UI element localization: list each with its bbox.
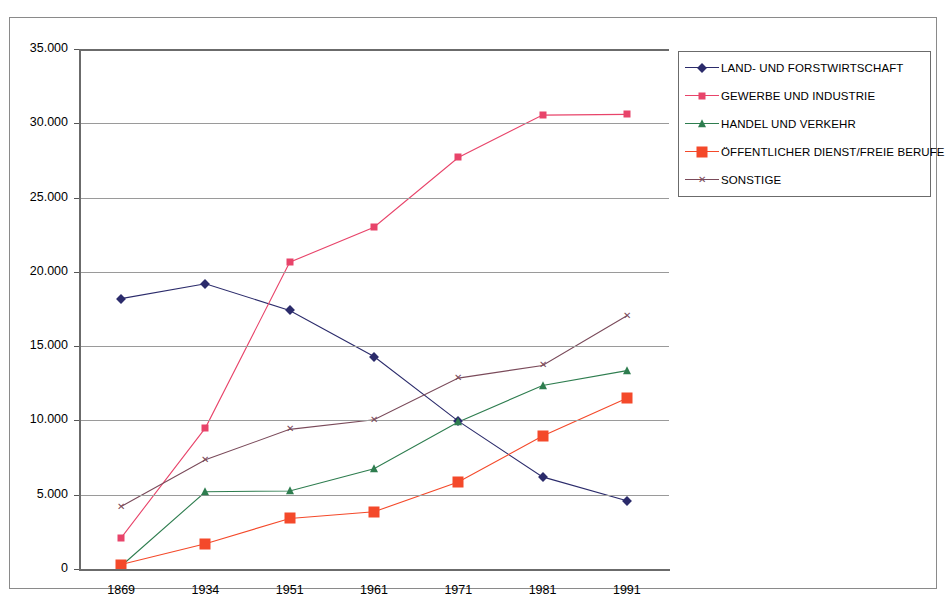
- legend-swatch: [685, 145, 719, 159]
- legend-swatch: ✕: [685, 173, 719, 187]
- x-tick-label: 1951: [260, 583, 320, 597]
- legend-item[interactable]: HANDEL UND VERKEHR: [685, 115, 856, 133]
- diamond-icon: [697, 63, 707, 73]
- legend-swatch: [685, 61, 719, 75]
- chart-frame: 35.00030.00025.00020.00015.00010.0005.00…: [9, 17, 937, 589]
- x-tick-label: 1981: [513, 583, 573, 597]
- legend-item-label: SONSTIGE: [721, 174, 781, 186]
- chart-page: 35.00030.00025.00020.00015.00010.0005.00…: [0, 0, 947, 603]
- x-tick-label: 1961: [344, 583, 404, 597]
- legend-swatch: [685, 89, 719, 103]
- legend-item-label: ÖFFENTLICHER DIENST/FREIE BERUFE: [721, 146, 945, 158]
- x-tick-label: 1934: [175, 583, 235, 597]
- triangle-icon: [698, 119, 706, 127]
- square-small-icon: [699, 93, 706, 100]
- legend-swatch: [685, 117, 719, 131]
- chart-legend: LAND- UND FORSTWIRTSCHAFTGEWERBE UND IND…: [678, 51, 931, 197]
- legend-item[interactable]: LAND- UND FORSTWIRTSCHAFT: [685, 59, 903, 77]
- x-icon: ✕: [698, 175, 706, 185]
- x-tick-label: 1991: [597, 583, 657, 597]
- scan-text-remnant: [0, 0, 947, 14]
- legend-item[interactable]: ✕SONSTIGE: [685, 171, 781, 189]
- legend-item-label: HANDEL UND VERKEHR: [721, 118, 856, 130]
- legend-item-label: LAND- UND FORSTWIRTSCHAFT: [721, 62, 903, 74]
- legend-item[interactable]: GEWERBE UND INDUSTRIE: [685, 87, 875, 105]
- x-tick-label: 1971: [428, 583, 488, 597]
- square-large-icon: [697, 147, 708, 158]
- x-tick-label: 1869: [91, 583, 151, 597]
- legend-item-label: GEWERBE UND INDUSTRIE: [721, 90, 875, 102]
- legend-item[interactable]: ÖFFENTLICHER DIENST/FREIE BERUFE: [685, 143, 945, 161]
